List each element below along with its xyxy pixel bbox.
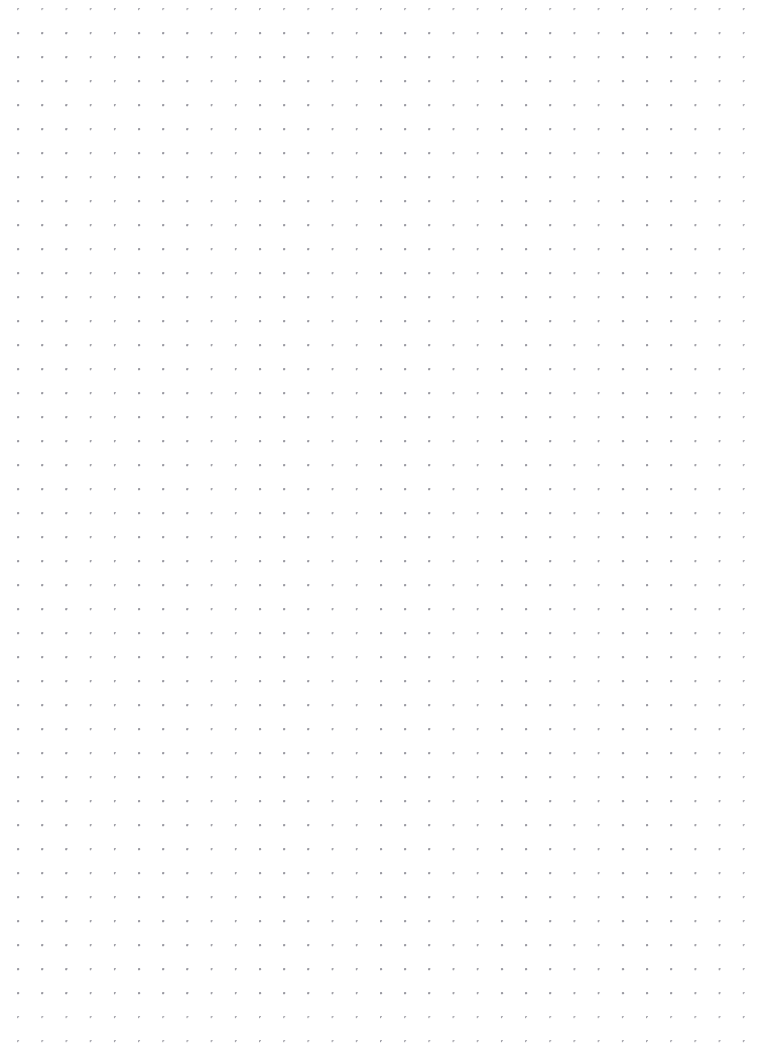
grid-dot: [308, 632, 310, 634]
grid-dot: [477, 800, 479, 802]
grid-dot: [429, 656, 431, 658]
grid-dot: [90, 152, 92, 154]
grid-dot: [622, 344, 624, 346]
grid-dot: [187, 368, 189, 370]
grid-dot: [90, 464, 92, 466]
grid-dot: [162, 656, 164, 658]
grid-dot: [283, 584, 285, 586]
grid-dot: [550, 320, 552, 322]
grid-dot: [138, 176, 140, 178]
grid-dot: [719, 272, 721, 274]
grid-dot: [41, 776, 43, 778]
dot-grid-surface[interactable]: [0, 0, 757, 1057]
grid-dot: [525, 824, 527, 826]
grid-dot: [17, 776, 19, 778]
grid-dot: [404, 440, 406, 442]
grid-dot: [332, 656, 334, 658]
grid-dot: [598, 176, 600, 178]
grid-dot: [429, 800, 431, 802]
grid-dot: [646, 440, 648, 442]
grid-dot: [525, 536, 527, 538]
grid-dot: [211, 800, 213, 802]
grid-dot: [574, 368, 576, 370]
grid-dot: [404, 200, 406, 202]
grid-dot: [380, 296, 382, 298]
grid-dot: [550, 464, 552, 466]
grid-dot: [138, 128, 140, 130]
grid-dot: [17, 944, 19, 946]
grid-dot: [162, 440, 164, 442]
grid-dot: [332, 920, 334, 922]
grid-dot: [453, 728, 455, 730]
grid-dot: [138, 608, 140, 610]
grid-dot: [66, 32, 68, 34]
grid-dot: [719, 104, 721, 106]
grid-dot: [162, 632, 164, 634]
grid-dot: [646, 152, 648, 154]
grid-dot: [477, 368, 479, 370]
grid-dot: [90, 920, 92, 922]
grid-dot: [380, 56, 382, 58]
grid-dot: [283, 848, 285, 850]
grid-dot: [429, 176, 431, 178]
grid-dot: [719, 608, 721, 610]
grid-dot: [114, 536, 116, 538]
grid-dot: [332, 296, 334, 298]
grid-dot: [525, 392, 527, 394]
grid-dot: [719, 656, 721, 658]
grid-dot: [41, 200, 43, 202]
grid-dot: [356, 992, 358, 994]
grid-dot: [477, 224, 479, 226]
grid-dot: [283, 248, 285, 250]
grid-dot: [404, 128, 406, 130]
grid-dot: [308, 152, 310, 154]
grid-dot: [719, 368, 721, 370]
grid-dot: [550, 584, 552, 586]
grid-dot: [162, 416, 164, 418]
grid-dot: [380, 872, 382, 874]
grid-dot: [259, 872, 261, 874]
grid-dot: [187, 848, 189, 850]
grid-dot: [477, 176, 479, 178]
grid-dot: [283, 632, 285, 634]
grid-dot: [622, 272, 624, 274]
grid-dot: [550, 344, 552, 346]
grid-dot: [380, 824, 382, 826]
grid-dot: [574, 560, 576, 562]
grid-dot: [477, 56, 479, 58]
grid-dot: [695, 440, 697, 442]
grid-dot: [114, 488, 116, 490]
grid-dot: [477, 896, 479, 898]
grid-dot: [525, 656, 527, 658]
grid-dot: [550, 80, 552, 82]
grid-dot: [622, 296, 624, 298]
grid-dot: [211, 920, 213, 922]
grid-dot: [308, 128, 310, 130]
grid-dot: [380, 944, 382, 946]
grid-dot: [525, 128, 527, 130]
grid-dot: [211, 776, 213, 778]
grid-dot: [574, 776, 576, 778]
grid-dot: [259, 200, 261, 202]
grid-dot: [622, 680, 624, 682]
grid-dot: [90, 752, 92, 754]
grid-dot: [259, 824, 261, 826]
grid-dot: [622, 752, 624, 754]
grid-dot: [114, 344, 116, 346]
grid-dot: [695, 488, 697, 490]
grid-dot: [501, 656, 503, 658]
grid-dot: [671, 776, 673, 778]
grid-dot: [646, 464, 648, 466]
grid-dot: [41, 944, 43, 946]
grid-dot: [380, 320, 382, 322]
grid-dot: [525, 680, 527, 682]
grid-dot: [429, 152, 431, 154]
grid-dot: [574, 656, 576, 658]
grid-dot: [671, 536, 673, 538]
grid-dot: [162, 56, 164, 58]
grid-dot: [719, 200, 721, 202]
grid-dot: [90, 248, 92, 250]
grid-dot: [17, 104, 19, 106]
grid-dot: [283, 896, 285, 898]
grid-dot: [380, 632, 382, 634]
